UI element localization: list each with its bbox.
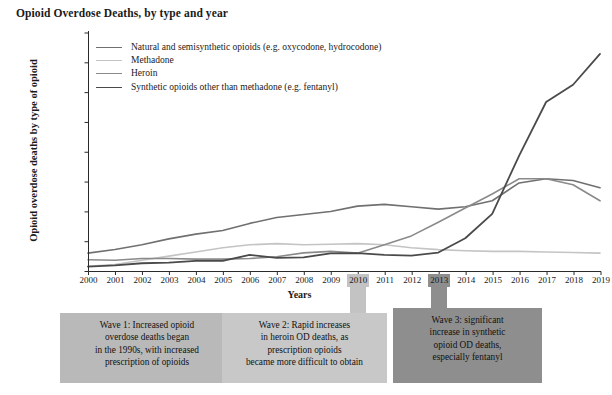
x-axis-label-text: Years — [288, 289, 312, 300]
x-tick-label: 2004 — [185, 274, 207, 287]
x-tick-label: 2017 — [536, 274, 558, 287]
x-tick-label: 2006 — [239, 274, 261, 287]
legend-label: Heroin — [131, 67, 157, 80]
annotation-line: in the 1990s, with increased — [64, 344, 230, 356]
annotation-line: prescription of opioids — [64, 356, 230, 368]
annotation-connector-2010 — [350, 286, 366, 313]
x-tick-label: 2016 — [509, 274, 531, 287]
x-tick-label: 2000 — [78, 274, 100, 287]
legend-swatch-line-icon — [96, 47, 122, 48]
x-tick-label: 2015 — [482, 274, 504, 287]
annotation-line: in heroin OD deaths, as — [226, 331, 383, 343]
annotation-line: became more difficult to obtain — [226, 356, 383, 368]
annotation-wave-2: Wave 2: Rapid increasesin heroin OD deat… — [222, 313, 387, 383]
annotation-connector-2013 — [431, 286, 447, 313]
x-tick-label: 2003 — [158, 274, 180, 287]
chart-title: Opioid Overdose Deaths, by type and year — [16, 7, 228, 19]
annotation-line: Wave 3: significant — [397, 314, 538, 326]
y-axis-label: Opioid overdose deaths by type of opioid — [28, 26, 39, 276]
x-tick-label: 2018 — [563, 274, 585, 287]
legend-item-4: Synthetic opioids other than methadone (… — [96, 81, 381, 94]
annotation-line: prescription opioids — [226, 344, 383, 356]
legend-swatch-line-icon — [96, 73, 122, 74]
legend-item-2: Methadone — [96, 54, 381, 67]
legend-label: Natural and semisynthetic opioids (e.g. … — [131, 41, 381, 54]
annotation-wave-3: Wave 3: significantincrease in synthetic… — [393, 308, 542, 383]
annotation-line: increase in synthetic — [397, 326, 538, 338]
annotation-line: overdose deaths began — [64, 331, 230, 343]
legend-swatch-line-icon — [96, 87, 122, 88]
x-tick-label: 2009 — [320, 274, 342, 287]
x-tick-label: 2014 — [455, 274, 477, 287]
chart-legend: Natural and semisynthetic opioids (e.g. … — [96, 41, 381, 94]
x-tick-label: 2002 — [131, 274, 153, 287]
x-tick-label: 2011 — [374, 274, 396, 287]
legend-swatch-line-icon — [96, 60, 122, 61]
legend-label: Synthetic opioids other than methadone (… — [131, 81, 338, 94]
x-tick-label: 2005 — [212, 274, 234, 287]
annotation-line: Wave 2: Rapid increases — [226, 319, 383, 331]
series-line-1 — [88, 179, 600, 253]
x-tick-label: 2008 — [293, 274, 315, 287]
legend-label: Methadone — [131, 54, 174, 67]
annotation-line: especially fentanyl — [397, 351, 538, 363]
legend-item-3: Heroin — [96, 67, 381, 80]
annotation-wave-1: Wave 1: Increased opioidoverdose deaths … — [60, 313, 234, 383]
series-line-3 — [88, 179, 600, 261]
annotation-line: opioid OD deaths, — [397, 339, 538, 351]
x-axis-label: Years — [0, 289, 609, 300]
legend-item-1: Natural and semisynthetic opioids (e.g. … — [96, 41, 381, 54]
annotation-line: Wave 1: Increased opioid — [64, 319, 230, 331]
x-tick-label: 2019 — [590, 274, 612, 287]
x-tick-label: 2012 — [401, 274, 423, 287]
x-tick-label: 2001 — [104, 274, 126, 287]
x-tick-label: 2007 — [266, 274, 288, 287]
